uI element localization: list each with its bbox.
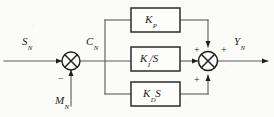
error-junction bbox=[62, 52, 80, 70]
block-label-derivative: KDS bbox=[143, 88, 161, 102]
sign-sum-junction-plus-left-upper: + bbox=[194, 45, 200, 55]
signal-label-error: CN bbox=[86, 36, 98, 50]
sign-sum-junction-plus-left-lower: + bbox=[194, 75, 200, 85]
signal-label-input: SN bbox=[22, 36, 32, 50]
sign-sum-junction-plus-right-upper: + bbox=[221, 45, 227, 55]
diagram-vector-layer bbox=[0, 0, 274, 117]
block-label-proportional: KP bbox=[145, 14, 157, 28]
block-label-integral: KI/S bbox=[140, 53, 158, 67]
sign-error-junction-negative: − bbox=[58, 74, 64, 84]
block-diagram-canvas: SN CN MN YN KP KI/S KDS − + + + bbox=[0, 0, 274, 117]
sum-junction bbox=[199, 52, 218, 71]
signal-label-feedback: MN bbox=[55, 95, 69, 109]
signal-label-output: YN bbox=[234, 36, 245, 50]
